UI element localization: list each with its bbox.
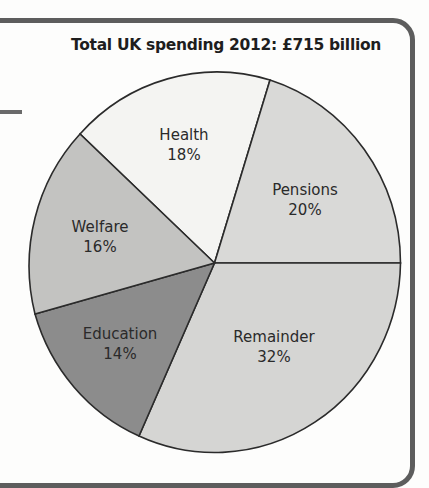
slice-name: Education (83, 324, 158, 344)
slice-percent: 18% (159, 145, 208, 165)
slice-name: Welfare (72, 217, 129, 237)
slice-label-welfare: Welfare 16% (72, 217, 129, 257)
slice-percent: 20% (272, 200, 338, 220)
slice-name: Health (159, 125, 208, 145)
slice-label-health: Health 18% (159, 125, 208, 165)
slice-percent: 32% (233, 347, 314, 367)
slice-percent: 16% (72, 237, 129, 257)
slice-label-pensions: Pensions 20% (272, 180, 338, 220)
slice-label-remainder: Remainder 32% (233, 327, 314, 367)
slice-percent: 14% (83, 344, 158, 364)
slice-name: Pensions (272, 180, 338, 200)
slice-name: Remainder (233, 327, 314, 347)
slice-label-education: Education 14% (83, 324, 158, 364)
